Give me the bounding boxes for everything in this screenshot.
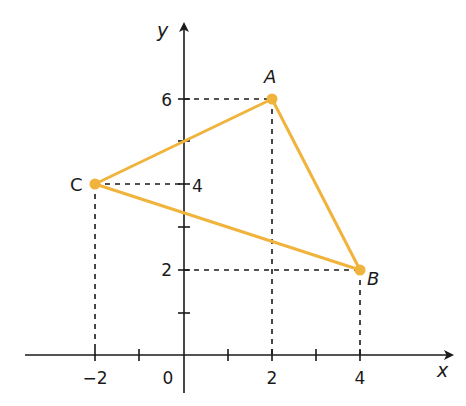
point-b-marker	[355, 265, 366, 276]
y-tick-label-4: 4	[192, 176, 203, 196]
point-c-label: C	[70, 174, 83, 195]
triangle-abc	[95, 99, 360, 270]
x-tick-label-4: 4	[355, 368, 366, 388]
origin-label: 0	[163, 368, 174, 388]
y-axis-label: y	[156, 19, 169, 41]
point-c-marker	[90, 179, 101, 190]
point-a-label: A	[263, 66, 276, 87]
point-a-marker	[267, 94, 278, 105]
point-b-label: B	[367, 268, 379, 289]
coordinate-plane-figure: x y −2 0 2 4 2 4 6 A B C	[0, 0, 466, 406]
x-axis-label: x	[436, 359, 449, 381]
y-tick-label-2: 2	[161, 260, 172, 280]
x-tick-label-neg2: −2	[82, 368, 107, 388]
y-tick-label-6: 6	[161, 90, 172, 110]
x-tick-label-2: 2	[267, 368, 278, 388]
